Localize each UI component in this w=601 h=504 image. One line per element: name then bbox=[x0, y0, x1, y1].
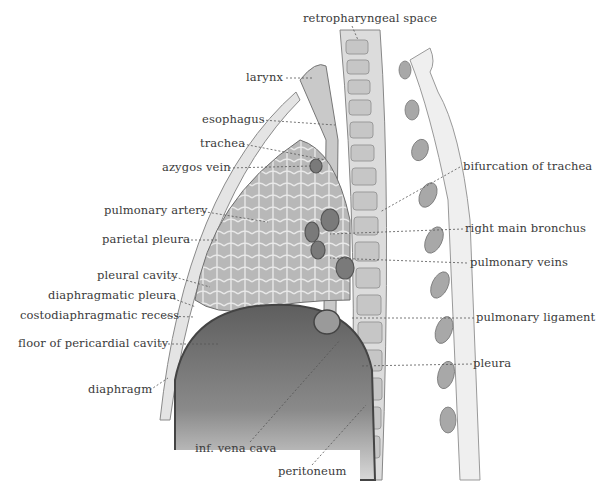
label-parietal-pleura: parietal pleura bbox=[102, 233, 190, 246]
label-trachea: trachea bbox=[200, 137, 245, 150]
thorax-illustration bbox=[0, 0, 601, 504]
label-pleural-cavity: pleural cavity bbox=[97, 269, 178, 282]
label-retropharyngeal-space: retropharyngeal space bbox=[303, 12, 437, 25]
label-inf-vena-cava: inf. vena cava bbox=[195, 442, 277, 455]
label-esophagus: esophagus bbox=[202, 113, 265, 126]
label-peritoneum: peritoneum bbox=[278, 465, 346, 478]
label-bifurcation-of-trachea: bifurcation of trachea bbox=[463, 160, 592, 173]
label-costodiaphragmatic-recess: costodiaphragmatic recess bbox=[20, 309, 179, 322]
label-pleura: pleura bbox=[473, 357, 511, 370]
label-pulmonary-ligament: pulmonary ligament bbox=[476, 311, 595, 324]
label-floor-of-pericardial-cavity: floor of pericardial cavity bbox=[18, 337, 168, 350]
anatomy-figure: retropharyngeal space larynx esophagus t… bbox=[0, 0, 601, 504]
label-diaphragm: diaphragm bbox=[88, 383, 152, 396]
label-pulmonary-artery: pulmonary artery bbox=[104, 204, 208, 217]
label-azygos-vein: azygos vein bbox=[162, 161, 231, 174]
label-larynx: larynx bbox=[246, 71, 283, 84]
label-right-main-bronchus: right main bronchus bbox=[465, 222, 586, 235]
label-diaphragmatic-pleura: diaphragmatic pleura bbox=[48, 289, 176, 302]
label-pulmonary-veins: pulmonary veins bbox=[470, 256, 568, 269]
